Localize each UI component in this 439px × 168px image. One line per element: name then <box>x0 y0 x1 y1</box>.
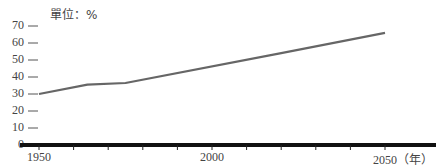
data-series-line <box>39 33 385 94</box>
line-chart-plot <box>0 0 439 168</box>
